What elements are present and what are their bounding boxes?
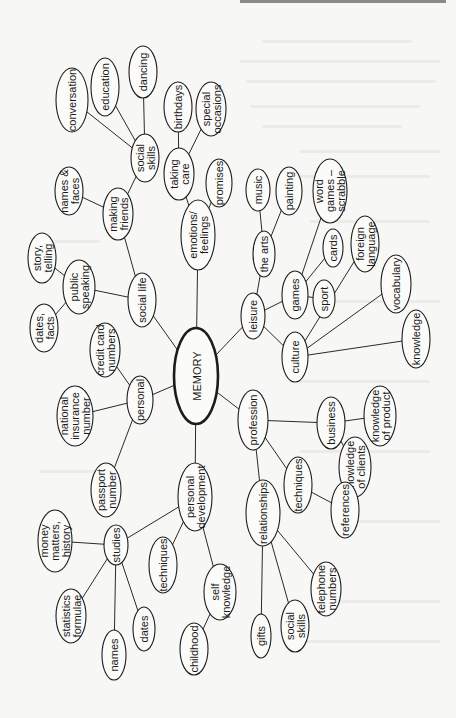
- node-label-line: scrabble: [335, 170, 347, 212]
- node-emotions: emotions/feelings: [181, 200, 215, 270]
- node-making-friends: makingfriends: [103, 188, 133, 240]
- node-techniques-prof: techniques: [284, 457, 312, 513]
- node-label-line: formulae: [71, 595, 83, 638]
- node-label-line: friends: [118, 197, 130, 231]
- node-the-arts: the arts: [253, 231, 275, 277]
- node-label: MEMORY: [191, 351, 203, 401]
- edge-culture-to-vocabulary: [295, 284, 396, 357]
- node-dates-facts: dates,facts: [30, 304, 58, 352]
- node-label-line: relationships: [257, 482, 269, 544]
- node-word-games: wordgames –scrabble: [313, 159, 347, 223]
- node-label: techniques: [292, 458, 304, 512]
- node-story-telling: story,telling: [28, 233, 56, 283]
- node-label-line: development: [195, 466, 207, 529]
- node-label-line: numbers: [326, 567, 338, 610]
- node-label-line: music: [252, 175, 264, 204]
- node-label-line: personal: [134, 379, 146, 421]
- node-social-skills-rel: socialskills: [281, 600, 309, 652]
- node-promises: promises: [206, 159, 232, 207]
- node-label-line: childhood: [188, 625, 200, 672]
- node-label: moneymatters,history: [38, 521, 72, 561]
- node-label: relationships: [257, 482, 269, 544]
- node-foreign-language: foreignlanguage: [351, 216, 379, 272]
- mind-map-nodes: MEMORYsocial lifemakingfriendsnames &fac…: [28, 46, 430, 680]
- node-dancing: dancing: [129, 46, 157, 98]
- node-label: nationalinsurancenumber: [58, 392, 92, 440]
- node-names: names: [102, 630, 126, 680]
- node-culture: culture: [282, 332, 308, 382]
- node-label: statisticsformulae: [60, 594, 83, 637]
- node-label-line: techniques: [292, 458, 304, 512]
- node-label: names: [108, 638, 120, 672]
- node-references: references: [331, 482, 359, 538]
- node-label-line: business: [325, 401, 337, 445]
- node-label-line: promises: [213, 160, 225, 205]
- node-statistics: statisticsformulae: [56, 589, 86, 643]
- node-studies: studies: [104, 525, 128, 565]
- node-label-line: games: [289, 278, 301, 312]
- node-label-line: telling: [42, 244, 54, 273]
- node-credit-card: credit cardnumbers: [90, 323, 120, 377]
- node-sport: sport: [313, 280, 335, 318]
- node-label-line: speaking: [79, 265, 91, 309]
- node-music: music: [246, 169, 270, 211]
- node-label-line: studies: [110, 527, 122, 562]
- node-vocabulary: vocabulary: [381, 255, 411, 313]
- node-label-line: techniques: [157, 538, 169, 592]
- node-label-line: of clients: [355, 445, 367, 489]
- node-conversation: conversation: [56, 68, 88, 132]
- node-label: dates: [138, 615, 150, 642]
- node-label-line: painting: [283, 172, 295, 211]
- node-label: techniques: [157, 538, 169, 592]
- node-label: birthdays: [172, 84, 184, 129]
- node-label: leisure: [247, 300, 259, 332]
- node-label: painting: [283, 172, 295, 211]
- node-label: passportnumber: [95, 469, 118, 511]
- node-label-line: names: [108, 638, 120, 672]
- node-birthdays: birthdays: [164, 82, 192, 132]
- node-label-line: knowledge: [410, 313, 422, 366]
- book-page: MEMORYsocial lifemakingfriendsnames &fac…: [0, 0, 456, 718]
- node-label: studies: [110, 527, 122, 562]
- node-label: music: [252, 175, 264, 204]
- node-label: personal: [134, 379, 146, 421]
- node-label-line: sport: [318, 287, 330, 311]
- node-label: social life: [136, 277, 148, 322]
- node-label-line: skills: [145, 146, 157, 170]
- node-games: games: [282, 271, 308, 319]
- node-childhood: childhood: [180, 623, 208, 675]
- node-memory: MEMORY: [174, 328, 218, 424]
- node-label: conversation: [66, 69, 78, 131]
- node-personal-dev: personaldevelopment: [178, 463, 212, 531]
- edge-culture-to-knowledge: [295, 339, 416, 357]
- node-dates: dates: [133, 607, 155, 651]
- node-label-line: the arts: [258, 235, 270, 272]
- node-label-line: care: [179, 163, 191, 184]
- node-label-line: number: [80, 397, 92, 435]
- node-label: dancing: [137, 53, 149, 92]
- node-label: story,telling: [31, 244, 54, 273]
- node-label-line: dancing: [137, 53, 149, 92]
- node-label-line: social life: [136, 277, 148, 322]
- node-knowledge: knowledge: [402, 310, 430, 368]
- node-telephone-numbers: telephonenumbers: [311, 562, 341, 616]
- node-label: vocabulary: [390, 257, 402, 311]
- node-label: foreignlanguage: [354, 221, 377, 266]
- node-passport: passportnumber: [91, 463, 121, 517]
- node-label: business: [325, 401, 337, 445]
- node-label-line: education: [99, 63, 111, 111]
- node-label: sport: [318, 287, 330, 311]
- node-label-line: faces: [69, 177, 81, 204]
- node-label-line: gifts: [255, 625, 267, 646]
- node-label: dates,facts: [33, 313, 56, 343]
- node-label: the arts: [258, 235, 270, 272]
- node-label-line: culture: [289, 340, 301, 373]
- node-label: gifts: [255, 625, 267, 646]
- node-label-line: leisure: [247, 300, 259, 332]
- node-names-faces: names &faces: [55, 167, 83, 215]
- memory-mind-map: MEMORYsocial lifemakingfriendsnames &fac…: [0, 0, 456, 718]
- node-label-line: knowledge: [220, 566, 232, 619]
- node-social-life: social life: [128, 273, 156, 327]
- node-label-line: numbers: [105, 328, 117, 371]
- node-label-line: vocabulary: [390, 257, 402, 311]
